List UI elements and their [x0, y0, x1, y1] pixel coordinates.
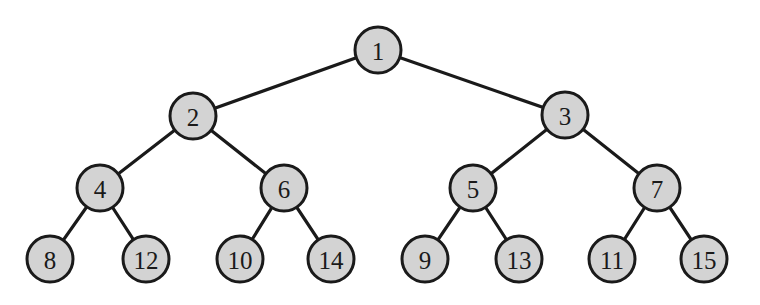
- tree-node-10: 10: [217, 236, 263, 282]
- node-label: 2: [187, 104, 200, 131]
- tree-node-9: 9: [402, 236, 448, 282]
- tree-node-6: 6: [261, 165, 307, 211]
- node-label: 3: [559, 103, 572, 130]
- node-label: 13: [507, 247, 532, 274]
- tree-node-13: 13: [496, 236, 542, 282]
- tree-node-11: 11: [589, 236, 635, 282]
- edge-1-3: [378, 50, 565, 115]
- tree-node-5: 5: [450, 165, 496, 211]
- node-label: 14: [319, 247, 345, 274]
- tree-nodes: 123465781210149131115: [27, 27, 727, 282]
- node-label: 1: [372, 38, 385, 65]
- node-label: 11: [600, 247, 624, 274]
- node-label: 5: [467, 176, 480, 203]
- node-label: 4: [94, 176, 107, 203]
- node-label: 15: [692, 247, 717, 274]
- node-label: 8: [44, 247, 57, 274]
- tree-node-2: 2: [170, 93, 216, 139]
- tree-node-15: 15: [681, 236, 727, 282]
- tree-node-3: 3: [542, 92, 588, 138]
- node-label: 6: [278, 176, 291, 203]
- tree-node-4: 4: [77, 165, 123, 211]
- tree-node-8: 8: [27, 236, 73, 282]
- tree-node-14: 14: [308, 236, 354, 282]
- node-label: 12: [134, 247, 159, 274]
- node-label: 9: [419, 247, 432, 274]
- tree-node-7: 7: [634, 165, 680, 211]
- tree-node-1: 1: [355, 27, 401, 73]
- edge-1-2: [193, 50, 378, 116]
- tree-edges: [50, 50, 704, 259]
- node-label: 10: [228, 247, 253, 274]
- binary-tree-diagram: 123465781210149131115: [0, 0, 760, 305]
- tree-node-12: 12: [123, 236, 169, 282]
- node-label: 7: [651, 176, 664, 203]
